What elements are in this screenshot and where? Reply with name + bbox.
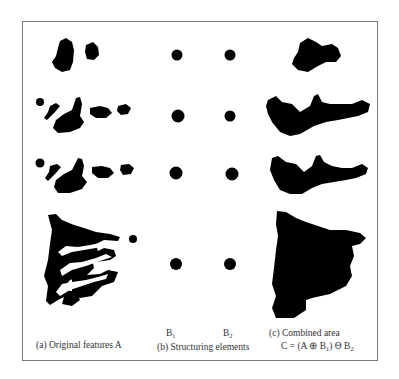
caption-a: (a) Original features A (36, 341, 122, 351)
feature-a-row1 (52, 38, 99, 72)
formula-prefix: C = (A ⊕ B (281, 341, 326, 351)
b1-label: B1 (166, 329, 176, 340)
formula-c: C = (A ⊕ B1) Θ B2 (281, 342, 354, 353)
formula-sub2: 2 (350, 345, 353, 352)
caption-c: (c) Combined area (269, 329, 340, 339)
combined-area-row2 (266, 94, 370, 136)
feature-a-row2 (36, 97, 131, 133)
figure-artwork (0, 0, 399, 379)
b2-label: B2 (223, 329, 233, 340)
structuring-element-b1 (170, 50, 185, 271)
combined-area-row3 (270, 155, 368, 194)
combined-area-row1 (292, 38, 341, 72)
b2-subscript: 2 (229, 332, 232, 339)
structuring-element-b2 (224, 50, 239, 271)
b1-subscript: 1 (172, 332, 175, 339)
formula-mid: ) Θ B (329, 341, 350, 351)
feature-a-row3 (36, 158, 135, 193)
caption-b: (b) Structuring elements (157, 343, 249, 353)
combined-area-row4 (272, 211, 366, 318)
